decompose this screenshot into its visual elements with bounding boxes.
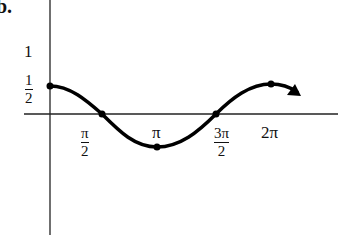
point-pi bbox=[154, 144, 161, 151]
point-3pi-half bbox=[213, 111, 220, 118]
point-2pi bbox=[268, 81, 275, 88]
denominator: 2 bbox=[25, 91, 33, 106]
x-tick-3pi-half: 3π 2 bbox=[214, 126, 229, 159]
numerator: 3π bbox=[214, 126, 229, 141]
cosine-graph bbox=[0, 0, 338, 235]
numerator: 1 bbox=[25, 73, 33, 88]
y-tick-half: 1 2 bbox=[25, 73, 33, 106]
numerator: π bbox=[81, 126, 89, 141]
denominator: 2 bbox=[81, 144, 89, 159]
point-pi-half bbox=[99, 111, 106, 118]
x-tick-pi: π bbox=[152, 124, 161, 141]
x-tick-2pi: 2π bbox=[261, 124, 278, 141]
denominator: 2 bbox=[218, 144, 226, 159]
x-tick-pi-half: π 2 bbox=[81, 126, 89, 159]
y-tick-1: 1 bbox=[24, 43, 33, 60]
point-0 bbox=[47, 83, 54, 90]
